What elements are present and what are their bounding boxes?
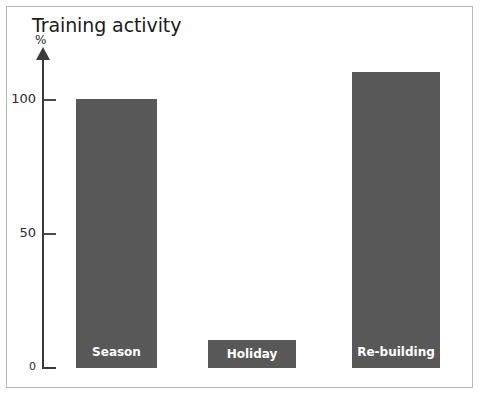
bar-re-building[interactable] — [352, 72, 440, 368]
plot-area: % 100 50 0 Season Holiday Re-building — [0, 0, 480, 395]
chart-figure: Training activity % 100 50 0 Season Holi… — [0, 0, 480, 395]
y-tick-mark-50 — [44, 233, 56, 235]
y-tick-label-50: 50 — [6, 225, 36, 240]
x-axis-baseline — [42, 367, 56, 369]
y-tick-label-0: 0 — [10, 360, 36, 373]
bar-label-re-building: Re-building — [352, 345, 440, 359]
bar-label-holiday: Holiday — [208, 347, 296, 361]
y-tick-label-100: 100 — [6, 91, 36, 106]
bar-season[interactable] — [76, 99, 157, 368]
bar-label-season: Season — [76, 345, 157, 359]
y-axis-line — [42, 58, 44, 369]
y-axis-unit-label: % — [35, 33, 46, 47]
y-tick-mark-100 — [44, 99, 56, 101]
